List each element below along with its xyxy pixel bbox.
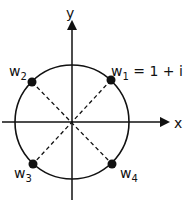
label-w4: w4 [120,165,138,184]
point-w3 [29,160,38,169]
label-w1: w1 = 1 + i [111,63,183,82]
complex-plane-diagram: y x w1 = 1 + i w2 w3 w4 [0,0,190,204]
y-axis-label: y [66,5,74,21]
point-w2 [28,78,37,87]
label-w2: w2 [9,63,27,82]
x-axis-label: x [174,115,182,131]
point-w4 [108,160,117,169]
label-w3: w3 [14,165,32,184]
